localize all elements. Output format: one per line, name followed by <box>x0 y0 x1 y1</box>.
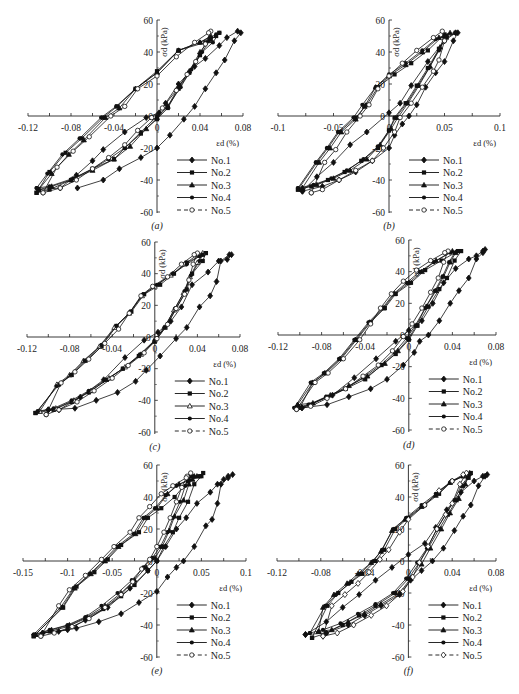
legend-label: No.5 <box>462 650 482 661</box>
series-line <box>36 253 206 413</box>
x-tick-label: -0.1 <box>270 123 285 133</box>
legend-label: No.3 <box>462 625 482 636</box>
series-line <box>310 475 470 633</box>
x-tick-label: -0.08 <box>312 342 332 352</box>
data-point-marker <box>389 292 393 296</box>
data-point-marker <box>206 31 210 35</box>
data-point-marker <box>211 40 215 44</box>
data-point-marker <box>394 116 398 120</box>
series-no4 <box>35 31 222 190</box>
data-point-marker <box>325 396 329 400</box>
data-point-marker <box>174 306 178 310</box>
x-tick-label: -0.12 <box>18 123 38 133</box>
y-axis-label: σd (kPa) <box>410 472 420 502</box>
data-point-marker <box>340 604 345 610</box>
data-point-marker <box>441 602 446 608</box>
series-line <box>297 251 449 409</box>
legend-label: No.4 <box>211 192 231 203</box>
data-point-marker <box>159 492 163 496</box>
data-point-marker <box>147 504 151 508</box>
data-point-marker <box>192 40 196 44</box>
data-point-marker <box>190 615 194 619</box>
panel-label: (b) <box>383 220 395 232</box>
data-point-marker <box>441 260 445 264</box>
series-line <box>38 255 203 412</box>
chart-panel-f: -0.12-0.08-0.0400.040.086040200-20-40-60… <box>267 461 504 678</box>
data-point-marker <box>360 103 364 107</box>
y-tick-label: -60 <box>372 208 385 218</box>
data-point-marker <box>345 130 349 134</box>
data-point-marker <box>171 484 175 488</box>
data-point-marker <box>119 592 123 596</box>
data-point-marker <box>329 176 333 180</box>
series-no5 <box>44 251 200 417</box>
y-tick-label: 60 <box>144 16 154 26</box>
data-point-marker <box>59 381 63 385</box>
series-no1 <box>46 252 234 413</box>
x-tick-label: -0.04 <box>355 342 375 352</box>
y-tick-label: -20 <box>140 144 153 154</box>
y-tick-label: -20 <box>140 589 153 599</box>
data-point-marker <box>190 208 194 212</box>
data-point-marker <box>367 103 371 107</box>
data-point-marker <box>335 630 340 636</box>
data-point-marker <box>452 258 456 262</box>
legend-label: No.5 <box>211 205 231 216</box>
data-point-marker <box>176 48 180 52</box>
legend-label: No.3 <box>211 180 231 191</box>
data-point-marker <box>92 389 96 393</box>
x-tick-label: 0 <box>152 344 157 354</box>
data-point-marker <box>39 634 43 638</box>
data-point-marker <box>401 279 405 283</box>
data-point-marker <box>174 500 178 504</box>
data-point-marker <box>347 581 351 585</box>
x-tick-label: 0.1 <box>494 123 506 133</box>
y-tick-label: 60 <box>395 461 405 471</box>
figure-canvas: -0.12-0.08-0.0400.040.086040200-20-40-60… <box>0 0 519 694</box>
data-point-marker <box>345 168 349 172</box>
data-point-marker <box>420 306 424 310</box>
series-no2 <box>32 471 206 638</box>
data-point-marker <box>190 157 195 163</box>
data-point-marker <box>70 398 74 402</box>
panel-label: (f) <box>404 665 414 677</box>
data-point-marker <box>361 157 365 161</box>
data-point-marker <box>36 409 40 413</box>
data-point-marker <box>437 58 441 62</box>
data-point-marker <box>188 416 192 420</box>
data-point-marker <box>119 611 124 617</box>
legend-label: No.2 <box>462 612 482 623</box>
x-tick-label: -0.04 <box>104 123 124 133</box>
data-point-marker <box>66 623 70 627</box>
legend-label: No.4 <box>462 637 482 648</box>
data-point-marker <box>203 55 208 61</box>
data-point-marker <box>73 405 78 411</box>
data-point-marker <box>87 616 91 620</box>
data-point-marker <box>139 567 143 571</box>
data-point-marker <box>385 376 390 382</box>
data-point-marker <box>308 631 312 635</box>
x-tick-label: 0.08 <box>488 342 505 352</box>
data-point-marker <box>351 116 355 120</box>
data-point-marker <box>48 628 52 632</box>
data-point-marker <box>123 104 127 108</box>
data-point-marker <box>323 604 327 608</box>
x-tick-label: -0.08 <box>60 344 80 354</box>
data-point-marker <box>55 165 59 169</box>
legend-label: No.3 <box>209 401 229 412</box>
panel-label: (e) <box>151 665 163 677</box>
y-tick-label: -60 <box>138 428 151 438</box>
x-tick-label: 0.05 <box>436 123 453 133</box>
data-point-marker <box>190 640 194 644</box>
data-point-marker <box>309 380 313 384</box>
x-tick-label: 0.1 <box>240 568 252 578</box>
data-point-marker <box>341 357 345 361</box>
data-point-marker <box>190 170 194 174</box>
data-point-marker <box>309 404 313 408</box>
data-point-marker <box>472 478 477 484</box>
data-point-marker <box>368 322 372 326</box>
data-point-marker <box>422 170 426 174</box>
data-point-marker <box>437 48 441 52</box>
data-point-marker <box>47 184 51 188</box>
data-point-marker <box>415 48 419 52</box>
